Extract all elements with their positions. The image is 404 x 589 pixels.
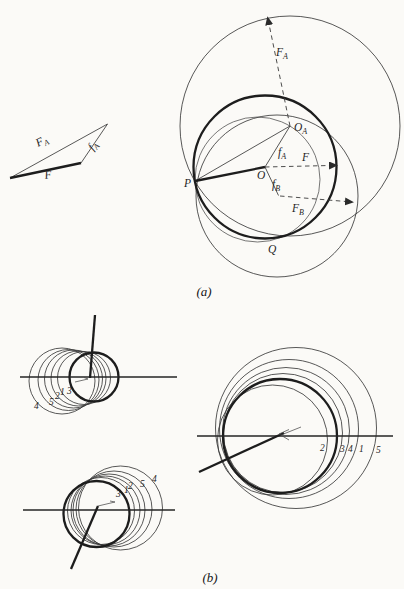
label-vector-fB: fB bbox=[272, 178, 280, 193]
line-P-O-bold bbox=[195, 167, 265, 181]
iter-label-4: 4 bbox=[348, 444, 353, 454]
iter-label-3: 3 bbox=[66, 386, 72, 396]
line-P-OA bbox=[195, 126, 290, 181]
iter-label-5: 5 bbox=[49, 397, 54, 407]
iter-label-5: 5 bbox=[140, 479, 145, 489]
vector-FA-dashed-arrow bbox=[269, 24, 290, 126]
center-chevron-mark bbox=[279, 430, 289, 441]
label-vector-F: F bbox=[301, 151, 310, 163]
iter-label-2: 2 bbox=[128, 481, 133, 491]
load-line-bold bbox=[199, 433, 284, 472]
label-point-O: O bbox=[257, 169, 266, 181]
label-point-Q: Q bbox=[268, 243, 277, 255]
iteration-cluster-top-left: 4 5 2 1 3 bbox=[20, 315, 177, 414]
vector-FB-dashed-arrow bbox=[280, 196, 346, 202]
label-vector-FB: FB bbox=[291, 202, 304, 217]
load-line-bold bbox=[71, 506, 98, 569]
iter-label-2: 2 bbox=[320, 443, 325, 453]
resolution-circle-diagram: P O OA Q F FA FB fA fB bbox=[180, 16, 400, 277]
iter-label-5: 5 bbox=[376, 445, 381, 455]
iter-label-1: 1 bbox=[60, 387, 65, 397]
center-tick-mark bbox=[98, 501, 115, 506]
iter-label-4: 4 bbox=[34, 401, 39, 411]
force-triangle: FA fA F bbox=[10, 124, 108, 181]
iter-label-4: 4 bbox=[152, 474, 157, 484]
label-point-OA: OA bbox=[294, 121, 307, 136]
circle-FB bbox=[196, 115, 358, 277]
iter-label-1: 1 bbox=[359, 444, 364, 454]
center-radius-tick bbox=[281, 427, 301, 435]
iteration-cluster-bottom-left: 3 1 2 5 4 bbox=[23, 466, 175, 569]
label-vector-fA: fA bbox=[278, 146, 286, 161]
iter-label-3: 3 bbox=[339, 444, 345, 454]
center-tick-mark bbox=[75, 378, 88, 383]
label-vector-FA: FA bbox=[275, 46, 288, 61]
iter-label-3: 3 bbox=[115, 489, 121, 499]
caption-part-b: (b) bbox=[202, 570, 217, 585]
iteration-cluster-right: 2 3 4 1 5 bbox=[197, 348, 393, 509]
vector-F-dashed-arrow bbox=[265, 166, 330, 168]
label-point-P: P bbox=[183, 177, 191, 189]
label-triangle-fA: fA bbox=[85, 138, 101, 153]
figure-canvas: FA fA F P O OA Q F FA FB fA fB (a) bbox=[0, 0, 404, 589]
scanned-figure-page: FA fA F P O OA Q F FA FB fA fB (a) bbox=[0, 0, 404, 589]
caption-part-a: (a) bbox=[196, 284, 211, 299]
label-triangle-FA: FA bbox=[33, 133, 51, 152]
